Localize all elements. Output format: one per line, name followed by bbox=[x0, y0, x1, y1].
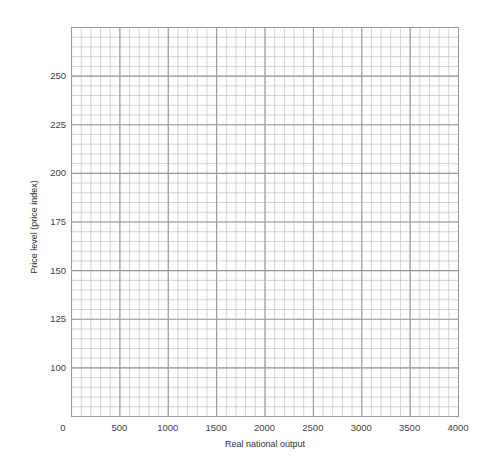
grid-chart: 05001000150020002500300035004000 1001251… bbox=[0, 0, 498, 474]
y-tick-label: 175 bbox=[50, 216, 66, 227]
y-tick-label: 250 bbox=[50, 70, 66, 81]
y-tick-label: 200 bbox=[50, 167, 66, 178]
y-tick-label: 225 bbox=[50, 119, 66, 130]
x-tick-label: 2000 bbox=[254, 422, 275, 433]
x-tick-label: 1000 bbox=[157, 422, 178, 433]
x-axis-label: Real national output bbox=[225, 439, 306, 449]
y-tick-label: 125 bbox=[50, 313, 66, 324]
x-tick-label: 1500 bbox=[206, 422, 227, 433]
x-tick-label: 4000 bbox=[447, 422, 468, 433]
x-tick-label: 3500 bbox=[399, 422, 420, 433]
x-tick-label: 3000 bbox=[351, 422, 372, 433]
x-tick-label: 0 bbox=[60, 422, 65, 433]
y-axis-tick-labels: 100125150175200225250 bbox=[50, 70, 66, 373]
y-tick-label: 100 bbox=[50, 362, 66, 373]
x-tick-label: 500 bbox=[111, 422, 127, 433]
y-tick-label: 150 bbox=[50, 265, 66, 276]
y-axis-label: Price level (price index) bbox=[29, 180, 39, 274]
x-tick-label: 2500 bbox=[302, 422, 323, 433]
x-axis-tick-labels: 05001000150020002500300035004000 bbox=[60, 422, 468, 433]
